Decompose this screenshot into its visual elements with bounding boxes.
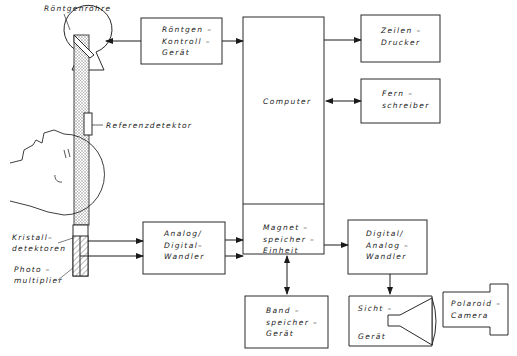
label-crystal: Kristall– detektoren <box>12 232 66 254</box>
label-reference: Referenzdetektor <box>106 120 192 131</box>
diagram-canvas <box>0 0 517 356</box>
text-teleprinter: Fern – schreiber <box>382 88 430 111</box>
text-computer: Computer <box>263 96 311 108</box>
box-computer <box>243 17 324 254</box>
text-tape: Band – speicher – Gerät <box>266 305 318 340</box>
text-display-bottom: Gerät <box>358 331 386 343</box>
text-adc: Analog/ Digital– Wandler <box>164 228 205 263</box>
text-dac: Digital/ Analog – Wandler <box>366 228 409 263</box>
label-tube: Röntgenröhre <box>44 3 111 14</box>
label-photo: Photo – multiplier <box>14 264 63 286</box>
text-magnetic: Magnet – speicher – Einheit <box>263 222 315 257</box>
text-xray-control: Röntgen – Kontroll – Gerät <box>162 24 212 59</box>
ct-block-diagram: Röntgenröhre Referenzdetektor Kristall– … <box>0 0 517 356</box>
text-polaroid: Polaroid – Camera <box>451 298 501 321</box>
text-display-top: Sicht – <box>358 303 393 315</box>
text-line-printer: Zeilen – Drucker <box>381 25 422 48</box>
